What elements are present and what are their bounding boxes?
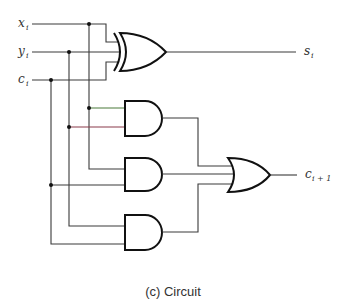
circuit-diagram: x i y i c i s (0, 0, 346, 306)
xor-gate (114, 33, 166, 71)
svg-text:i + 1: i + 1 (312, 174, 331, 183)
input-label-y: y i (17, 44, 29, 60)
figure-caption: (c) Circuit (0, 284, 346, 299)
and-gate-1 (125, 101, 162, 136)
svg-text:s: s (304, 44, 310, 58)
and-gate-2 (125, 158, 162, 191)
input-wires (32, 24, 120, 80)
and-output-wires (162, 118, 234, 232)
junction-dots (49, 22, 91, 187)
svg-text:i: i (311, 51, 314, 60)
output-label-s: s i (304, 44, 314, 60)
or-gate (228, 158, 270, 192)
svg-text:i: i (26, 23, 29, 32)
svg-text:y: y (17, 44, 25, 58)
output-label-carry: c i + 1 (305, 167, 331, 183)
input-label-x: x i (18, 16, 29, 32)
and-gate-3 (125, 215, 162, 250)
bus-wires (51, 24, 125, 244)
svg-text:x: x (18, 16, 25, 30)
svg-text:i: i (26, 51, 29, 60)
svg-text:c: c (305, 167, 312, 181)
svg-text:i: i (26, 79, 29, 88)
svg-text:c: c (18, 72, 25, 86)
input-label-c: c i (18, 72, 29, 88)
